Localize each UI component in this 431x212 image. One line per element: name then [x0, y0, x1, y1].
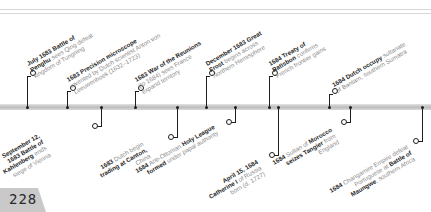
- connector: [67, 91, 71, 92]
- top-rule: [0, 9, 431, 14]
- event-label: September 12, 1683 Battle of Kahlenberg …: [0, 132, 52, 182]
- connector: [101, 107, 102, 127]
- event-label: April 15, 1684 Catherine I of Russia bor…: [204, 158, 266, 206]
- event-marker-ring: [226, 119, 232, 125]
- connector: [329, 94, 333, 95]
- connector: [350, 107, 351, 123]
- event-marker-ring: [341, 119, 347, 125]
- connector: [235, 107, 236, 123]
- page-number: 228: [9, 191, 37, 207]
- connector: [206, 76, 207, 107]
- connector: [135, 91, 139, 92]
- connector: [27, 76, 31, 77]
- connector: [27, 76, 28, 107]
- connector: [269, 76, 273, 77]
- connector: [135, 91, 136, 107]
- connector: [206, 76, 210, 77]
- connector: [269, 76, 270, 107]
- event-label: 1684 Sultan of Morocco seizes Tangier fr…: [271, 126, 340, 178]
- event-marker-ring: [92, 123, 98, 129]
- connector: [422, 107, 423, 142]
- connector: [67, 91, 68, 107]
- event-label: 1684 Dutch occupy sultanate of Bantam, s…: [331, 40, 410, 94]
- connector: [177, 107, 178, 138]
- connector: [329, 94, 330, 107]
- event-marker-ring: [413, 138, 419, 144]
- event-marker-ring: [168, 134, 174, 140]
- event-label: 1684 Treaty of Ratisbon confirms French …: [267, 33, 327, 80]
- connector: [278, 107, 279, 156]
- timeline-bar: [0, 104, 431, 110]
- event-label: December 1683 Great Frost begins across …: [204, 29, 270, 79]
- event-label: 1684 Changamire Empire defeat Portuguese…: [328, 143, 416, 206]
